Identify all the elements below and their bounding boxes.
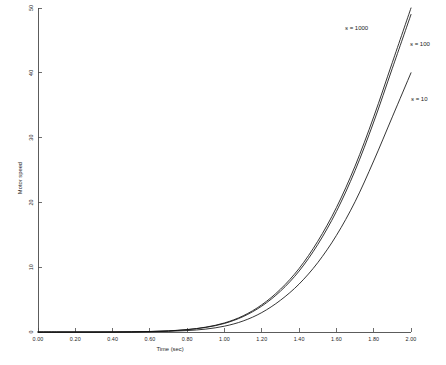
x-tick-label: 1.60 <box>331 336 342 342</box>
y-tick-label: 30 <box>28 134 34 140</box>
x-tick-label: 0.40 <box>107 336 118 342</box>
x-tick-label: 1.00 <box>219 336 230 342</box>
x-tick-label: 1.80 <box>368 336 379 342</box>
series-curve-10 <box>38 73 411 332</box>
y-tick-label: 50 <box>28 5 34 11</box>
x-axis-ticks <box>38 328 411 332</box>
chart-figure: 0.000.200.400.600.801.001.201.401.601.80… <box>0 0 446 365</box>
series-value-s1000: = 1000 <box>348 25 369 31</box>
series-label-s10: s = 10 <box>411 96 428 102</box>
series-value-s100: = 100 <box>413 41 431 47</box>
x-tick-label: 2.00 <box>406 336 417 342</box>
x-axis-title: Time (sec) <box>156 346 183 352</box>
x-tick-label: 0.60 <box>144 336 155 342</box>
series-value-s10: = 10 <box>414 96 428 102</box>
series-curve-100 <box>38 14 411 332</box>
series-label-s100: s = 100 <box>410 41 431 47</box>
x-tick-label: 0.20 <box>70 336 81 342</box>
x-tick-label: 1.40 <box>294 336 305 342</box>
x-tick-label: 0.80 <box>182 336 193 342</box>
x-tick-label: 0.00 <box>33 336 44 342</box>
y-axis-tick-labels: 01020304050 <box>28 5 34 334</box>
data-series-group <box>38 8 411 332</box>
line-chart-canvas: 0.000.200.400.600.801.001.201.401.601.80… <box>0 0 446 365</box>
y-tick-label: 0 <box>28 330 34 333</box>
series-label-s1000: s = 1000 <box>345 25 369 31</box>
y-axis-title: Motor speed <box>17 162 23 194</box>
x-axis-tick-labels: 0.000.200.400.600.801.001.201.401.601.80… <box>33 336 417 342</box>
y-axis-ticks <box>38 8 42 332</box>
x-tick-label: 1.20 <box>256 336 267 342</box>
y-tick-label: 10 <box>28 264 34 270</box>
y-tick-label: 40 <box>28 70 34 76</box>
y-tick-label: 20 <box>28 199 34 205</box>
